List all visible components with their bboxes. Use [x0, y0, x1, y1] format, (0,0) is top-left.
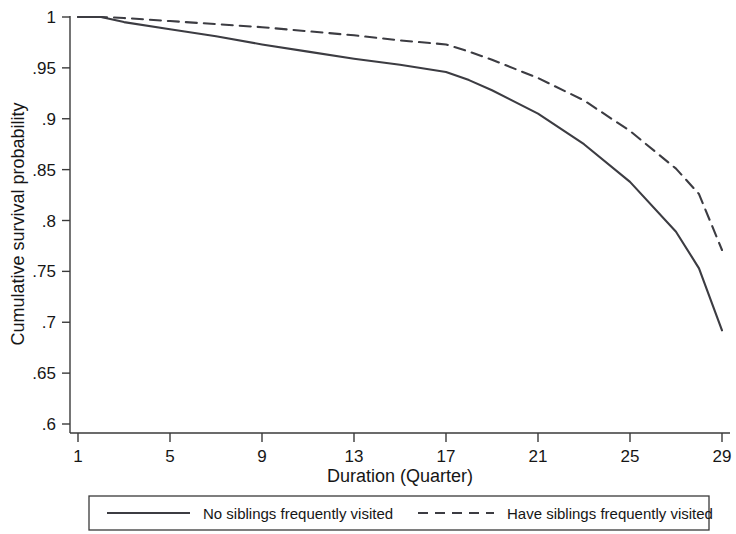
- y-tick-label: .75: [32, 262, 56, 281]
- data-series-group: [78, 17, 722, 330]
- y-tick-label: .7: [42, 313, 56, 332]
- chart-canvas: .6.65.7.75.8.85.9.951 Cumulative surviva…: [0, 0, 736, 534]
- x-axis-title: Duration (Quarter): [327, 466, 473, 486]
- x-tick-label: 25: [621, 447, 640, 466]
- x-tick-label: 1: [73, 447, 82, 466]
- series-line-no-siblings: [78, 17, 722, 330]
- y-tick-label: 1: [47, 8, 56, 27]
- y-tick-label: .65: [32, 364, 56, 383]
- x-tick-label: 5: [165, 447, 174, 466]
- legend-label-no-siblings: No siblings frequently visited: [203, 505, 393, 522]
- y-tick-label: .95: [32, 59, 56, 78]
- x-axis: 1591317212529 Duration (Quarter): [70, 433, 731, 486]
- legend-label-have-siblings: Have siblings frequently visited: [507, 505, 713, 522]
- x-tick-label: 9: [257, 447, 266, 466]
- y-tick-label: .85: [32, 161, 56, 180]
- y-axis-title: Cumulative survival probability: [8, 102, 28, 345]
- x-tick-label: 13: [345, 447, 364, 466]
- series-line-have-siblings: [78, 17, 722, 250]
- y-axis-ticks: .6.65.7.75.8.85.9.951: [32, 8, 70, 434]
- x-tick-label: 17: [437, 447, 456, 466]
- survival-curve-figure: .6.65.7.75.8.85.9.951 Cumulative surviva…: [0, 0, 736, 534]
- y-axis: .6.65.7.75.8.85.9.951 Cumulative surviva…: [8, 8, 70, 434]
- x-tick-label: 29: [713, 447, 732, 466]
- x-axis-ticks: 1591317212529: [73, 433, 731, 466]
- chart-legend: No siblings frequently visited Have sibl…: [89, 496, 713, 530]
- y-tick-label: .8: [42, 212, 56, 231]
- y-tick-label: .9: [42, 110, 56, 129]
- y-tick-label: .6: [42, 415, 56, 434]
- x-tick-label: 21: [529, 447, 548, 466]
